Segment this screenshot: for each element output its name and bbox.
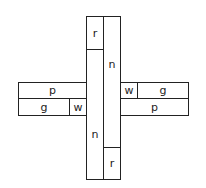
cell-right-n: n xyxy=(103,16,121,148)
cell-label: r xyxy=(93,28,98,39)
cell-right-p: p xyxy=(120,98,189,116)
cell-label: n xyxy=(109,59,116,70)
cell-label: r xyxy=(110,158,115,169)
cell-label: g xyxy=(41,102,48,113)
cell-label: g xyxy=(160,85,167,96)
cell-left-n: n xyxy=(86,49,104,180)
cell-left-w: w xyxy=(69,98,87,116)
cell-bottom-r: r xyxy=(103,147,121,180)
cell-label: p xyxy=(49,85,56,96)
cell-label: w xyxy=(74,102,83,113)
cell-label: n xyxy=(92,129,99,140)
cell-right-g: g xyxy=(137,82,189,99)
cell-left-p: p xyxy=(18,82,87,99)
cell-label: p xyxy=(151,102,158,113)
cell-top-r: r xyxy=(86,16,104,50)
cell-left-g: g xyxy=(18,98,70,116)
cell-right-w: w xyxy=(120,82,138,99)
cell-label: w xyxy=(125,85,134,96)
